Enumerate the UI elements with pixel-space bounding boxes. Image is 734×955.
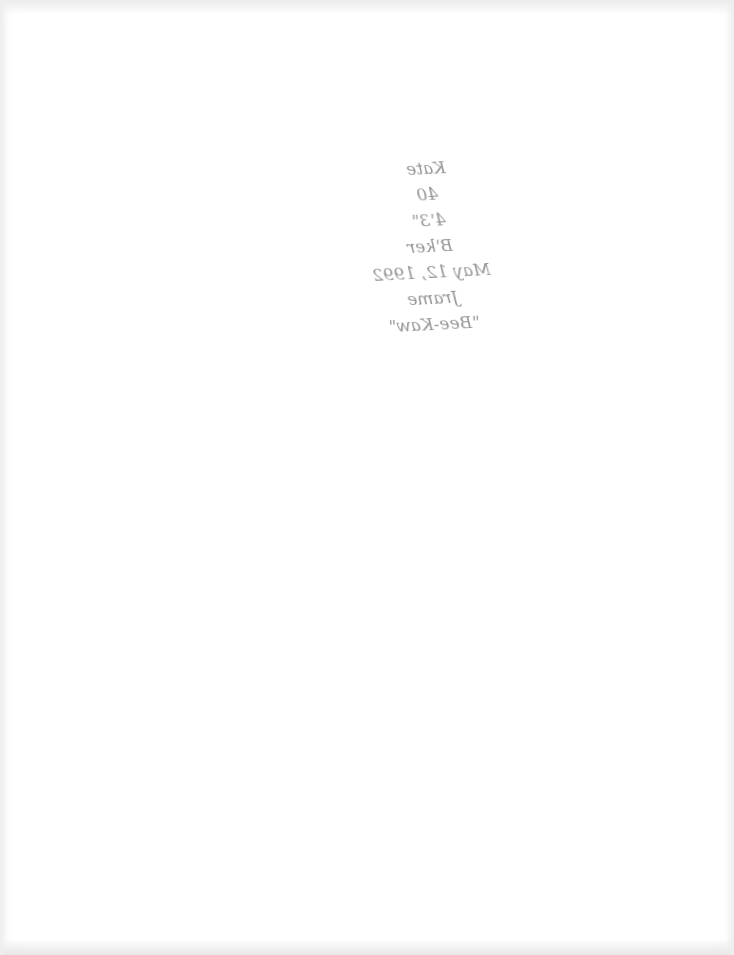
page-edge-right (726, 0, 734, 955)
handwritten-note: Kate 40 4'3" B'ker May 12, 1992 Jrame "B… (325, 150, 534, 342)
scanned-page: Kate 40 4'3" B'ker May 12, 1992 Jrame "B… (0, 0, 734, 955)
page-edge-left (0, 0, 8, 955)
bleed-through-header (80, 40, 680, 70)
page-edge-top (0, 0, 734, 14)
bleed-through-footer (40, 895, 700, 925)
page-edge-bottom (0, 939, 734, 955)
